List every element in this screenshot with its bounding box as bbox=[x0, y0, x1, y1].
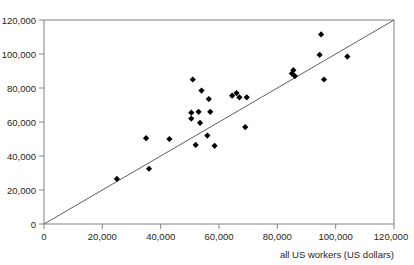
data-point bbox=[190, 76, 196, 82]
y-tick-label-100000: 100,000 bbox=[2, 49, 36, 60]
x-tick-label-80000: 80,000 bbox=[263, 231, 292, 242]
data-point bbox=[143, 135, 149, 141]
data-point bbox=[197, 120, 203, 126]
x-tick-label-20000: 20,000 bbox=[88, 231, 117, 242]
data-point bbox=[244, 94, 250, 100]
y-axis-ticks bbox=[39, 20, 44, 224]
data-point bbox=[207, 109, 213, 115]
x-tick-label-0: 0 bbox=[41, 231, 46, 242]
x-tick-label-60000: 60,000 bbox=[204, 231, 233, 242]
identity-reference-line bbox=[44, 20, 394, 224]
data-point bbox=[166, 136, 172, 142]
data-point bbox=[212, 143, 218, 149]
y-axis-tick-labels: 0 20,000 40,000 60,000 80,000 100,000 12… bbox=[2, 15, 36, 230]
scatter-chart: 0 20,000 40,000 60,000 80,000 100,000 12… bbox=[0, 0, 414, 265]
plot-area-svg: 0 20,000 40,000 60,000 80,000 100,000 12… bbox=[0, 0, 414, 265]
x-tick-label-100000: 100,000 bbox=[319, 231, 353, 242]
data-point bbox=[193, 142, 199, 148]
y-tick-label-60000: 60,000 bbox=[7, 117, 36, 128]
x-tick-label-40000: 40,000 bbox=[146, 231, 175, 242]
x-tick-label-120000: 120,000 bbox=[374, 231, 408, 242]
y-tick-label-80000: 80,000 bbox=[7, 83, 36, 94]
data-point bbox=[344, 53, 350, 59]
data-point bbox=[321, 76, 327, 82]
data-point bbox=[317, 52, 323, 58]
y-tick-label-20000: 20,000 bbox=[7, 185, 36, 196]
data-point bbox=[188, 110, 194, 116]
y-tick-label-40000: 40,000 bbox=[7, 151, 36, 162]
data-point bbox=[242, 124, 248, 130]
data-point bbox=[195, 109, 201, 115]
x-axis-tick-labels: 0 20,000 40,000 60,000 80,000 100,000 12… bbox=[41, 231, 408, 242]
y-tick-label-120000: 120,000 bbox=[2, 15, 36, 26]
x-axis-title: all US workers (US dollars) bbox=[280, 249, 394, 260]
y-tick-label-0: 0 bbox=[31, 219, 36, 230]
x-axis-ticks bbox=[44, 224, 394, 229]
data-point bbox=[198, 87, 204, 93]
data-point bbox=[114, 176, 120, 182]
data-point bbox=[188, 116, 194, 122]
data-point bbox=[318, 31, 324, 37]
data-points-layer bbox=[114, 31, 351, 182]
data-point bbox=[206, 96, 212, 102]
data-point bbox=[146, 166, 152, 172]
data-point bbox=[204, 133, 210, 139]
